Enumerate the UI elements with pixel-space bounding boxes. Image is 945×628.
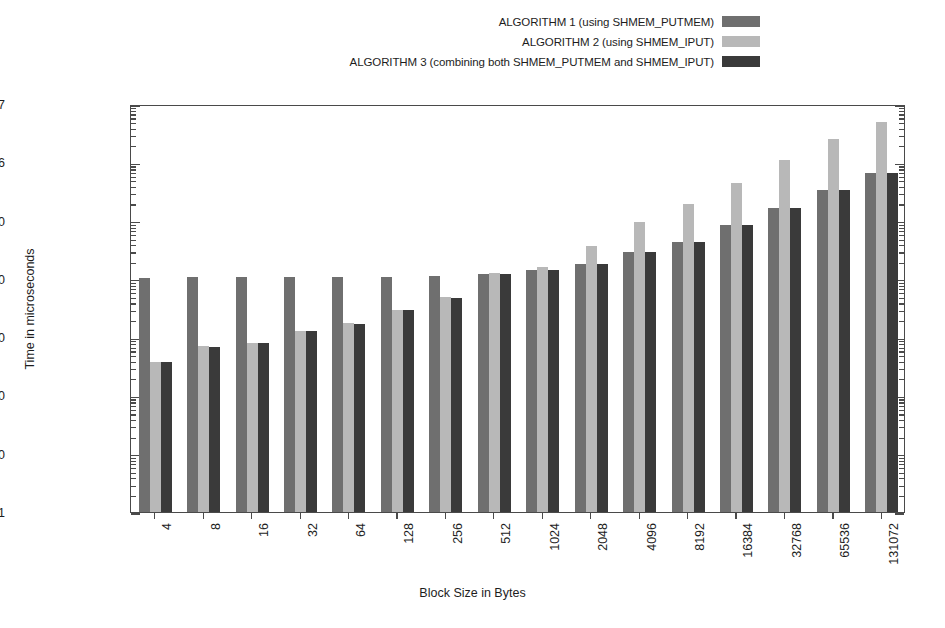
- bar-series-1: [478, 274, 489, 512]
- bar-series-2: [198, 346, 209, 512]
- x-axis-tick-labels: 4816326412825651210242048409681921638432…: [130, 513, 905, 583]
- bar-series-3: [694, 242, 705, 512]
- bar-series-2: [247, 343, 258, 512]
- bar-series-3: [451, 298, 462, 512]
- bar-series-1: [817, 190, 828, 512]
- y-tick-label: 1e+06: [0, 156, 5, 170]
- x-tick: [203, 513, 204, 519]
- bar-series-2: [634, 222, 645, 512]
- plot-area: [130, 105, 905, 513]
- x-axis-title: Block Size in Bytes: [0, 586, 945, 600]
- bar-series-3: [306, 331, 317, 512]
- y-tick-label: 10: [0, 448, 5, 462]
- x-tick: [881, 513, 882, 519]
- bar-series-1: [526, 270, 537, 512]
- legend-item: ALGORITHM 2 (using SHMEM_IPUT): [522, 34, 760, 49]
- bar-series-3: [645, 252, 656, 512]
- x-tick: [154, 513, 155, 519]
- x-tick: [832, 513, 833, 519]
- x-tick-label: 16: [257, 523, 271, 537]
- bar-series-2: [876, 122, 887, 512]
- y-tick-label: 1000: [0, 331, 5, 345]
- x-tick-label: 512: [499, 523, 513, 544]
- bar-series-3: [548, 270, 559, 512]
- bar-group: [470, 106, 518, 512]
- x-tick: [396, 513, 397, 519]
- bar-series-3: [790, 208, 801, 512]
- legend-label-algorithm-1: ALGORITHM 1 (using SHMEM_PUTMEM): [499, 16, 714, 28]
- bar-series-2: [537, 267, 548, 512]
- chart-legend: ALGORITHM 1 (using SHMEM_PUTMEM) ALGORIT…: [0, 14, 760, 69]
- bar-group: [858, 106, 906, 512]
- bar-series-2: [295, 331, 306, 512]
- x-tick: [590, 513, 591, 519]
- x-tick-label: 65536: [838, 523, 852, 558]
- bar-series-2: [586, 246, 597, 512]
- bar-series-3: [500, 274, 511, 512]
- x-tick: [784, 513, 785, 519]
- bar-series-3: [403, 310, 414, 512]
- x-tick: [300, 513, 301, 519]
- bar-group: [228, 106, 276, 512]
- bar-group: [276, 106, 324, 512]
- x-tick-label: 32768: [790, 523, 804, 558]
- bar-series-3: [742, 225, 753, 512]
- bar-series-3: [209, 347, 220, 512]
- bar-group: [519, 106, 567, 512]
- bar-series-1: [236, 277, 247, 512]
- bar-series-2: [779, 160, 790, 512]
- legend-swatch-algorithm-1: [722, 16, 760, 27]
- bar-series-3: [597, 264, 608, 512]
- bar-group: [712, 106, 760, 512]
- bar-series-1: [575, 264, 586, 512]
- x-tick: [251, 513, 252, 519]
- x-tick-label: 1024: [548, 523, 562, 551]
- bar-series-1: [672, 242, 683, 512]
- bar-series-1: [381, 277, 392, 512]
- bar-group: [664, 106, 712, 512]
- y-axis-title: Time in microseconds: [23, 248, 37, 369]
- bar-group: [373, 106, 421, 512]
- bar-series-3: [161, 362, 172, 512]
- bar-group: [567, 106, 615, 512]
- x-tick-label: 32: [306, 523, 320, 537]
- bar-group: [179, 106, 227, 512]
- bar-series-2: [489, 273, 500, 512]
- bar-group: [422, 106, 470, 512]
- x-tick-label: 256: [451, 523, 465, 544]
- y-tick-label: 1e+07: [0, 98, 5, 112]
- bar-series-1: [865, 173, 876, 512]
- legend-label-algorithm-2: ALGORITHM 2 (using SHMEM_IPUT): [522, 36, 714, 48]
- bar-series-2: [731, 183, 742, 512]
- y-tick-label: 100: [0, 389, 5, 403]
- legend-item: ALGORITHM 1 (using SHMEM_PUTMEM): [499, 14, 760, 29]
- bar-series-1: [284, 277, 295, 512]
- bar-series-1: [139, 278, 150, 512]
- bar-series-2: [683, 204, 694, 512]
- bar-group: [131, 106, 179, 512]
- x-tick-label: 4: [160, 523, 174, 530]
- bar-series-2: [828, 139, 839, 512]
- bar-series-2: [343, 323, 354, 512]
- bar-series-1: [187, 277, 198, 512]
- bar-series-1: [332, 277, 343, 512]
- x-tick-label: 4096: [645, 523, 659, 551]
- bar-series-1: [429, 276, 440, 512]
- y-tick-label: 100000: [0, 215, 5, 229]
- legend-swatch-algorithm-3: [722, 56, 760, 67]
- bar-series-2: [392, 310, 403, 512]
- x-tick-label: 16384: [741, 523, 755, 558]
- y-tick-label: 1: [0, 506, 5, 520]
- x-tick-label: 64: [354, 523, 368, 537]
- bar-series-2: [150, 362, 161, 512]
- bar-group: [615, 106, 663, 512]
- x-tick-label: 8: [209, 523, 223, 530]
- y-tick-label: 10000: [0, 273, 5, 287]
- x-tick: [735, 513, 736, 519]
- legend-label-algorithm-3: ALGORITHM 3 (combining both SHMEM_PUTMEM…: [350, 56, 714, 68]
- x-tick: [493, 513, 494, 519]
- bar-series-3: [258, 343, 269, 512]
- bar-series-1: [768, 208, 779, 512]
- x-tick: [348, 513, 349, 519]
- x-tick-label: 131072: [887, 523, 901, 565]
